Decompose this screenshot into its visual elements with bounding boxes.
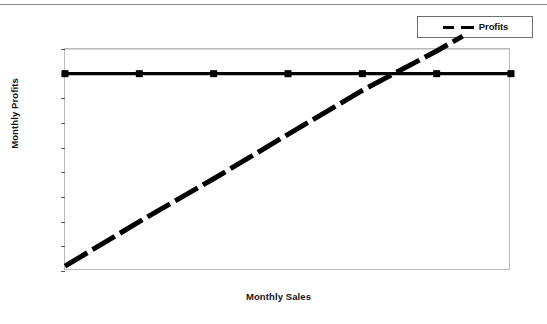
series-marker xyxy=(62,70,69,77)
series-line-profits xyxy=(65,36,463,266)
y-tick-mark xyxy=(61,271,65,272)
chart-legend[interactable]: Profits xyxy=(417,16,533,38)
legend-dashed-line-icon xyxy=(442,22,478,33)
chart-area: Profits Monthly Profits Monthly Sales 50… xyxy=(0,0,547,324)
legend-label-profits: Profits xyxy=(479,22,508,32)
series-marker xyxy=(210,70,217,77)
y-axis-title: Monthly Profits xyxy=(9,54,20,174)
x-axis-title: Monthly Sales xyxy=(0,291,547,302)
series-marker xyxy=(433,70,440,77)
series-layer xyxy=(65,49,511,271)
series-marker xyxy=(359,70,366,77)
series-marker xyxy=(508,70,515,77)
x-axis-title-text: Monthly Sales xyxy=(246,291,311,302)
series-marker xyxy=(136,70,143,77)
series-marker xyxy=(285,70,292,77)
plot-frame: 5000-500-1,000-1,500-2,000-2,500-3,000-3… xyxy=(64,48,510,270)
